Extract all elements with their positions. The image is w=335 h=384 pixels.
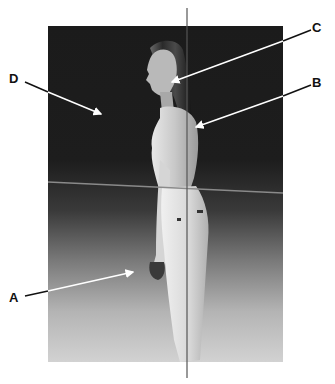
posture-diagram: A B C D: [0, 0, 335, 384]
label-b: B: [312, 76, 321, 89]
label-a: A: [9, 291, 18, 304]
leader-line-c: [172, 30, 311, 82]
leader-line-b: [196, 85, 311, 127]
label-c: C: [312, 21, 321, 34]
annotation-overlay: [0, 0, 335, 384]
label-d: D: [9, 72, 18, 85]
leader-line-d: [25, 82, 101, 114]
leader-line-a: [25, 272, 133, 296]
horizontal-reference-line: [48, 182, 283, 193]
